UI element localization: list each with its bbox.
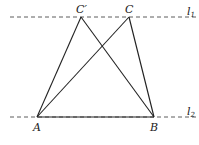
label-l1: l1 <box>187 5 195 19</box>
segment-a-cprime <box>37 17 81 117</box>
geometry-diagram: C′ C A B l1 l2 <box>0 0 199 145</box>
label-b: B <box>149 121 158 134</box>
segment-b-cprime <box>81 17 154 117</box>
label-l2-sub: 2 <box>190 111 196 119</box>
label-l1-sub: 1 <box>191 11 195 19</box>
label-l2: l2 <box>187 105 196 119</box>
label-c: C <box>125 3 134 16</box>
segment-b-c <box>129 17 154 117</box>
label-cprime: C′ <box>76 3 87 16</box>
label-a: A <box>32 121 41 134</box>
segment-a-c <box>37 17 129 117</box>
